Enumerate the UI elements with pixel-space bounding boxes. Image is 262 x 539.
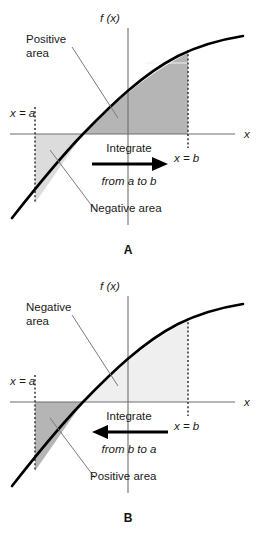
panel-b-positive-area-fill [35,402,83,471]
panel-a-diagram: f (x) x Positive area x = a x = b Integr… [0,0,262,270]
panel-b-direction-detail: from b to a [102,443,157,455]
figure-panel-a: f (x) x Positive area x = a x = b Integr… [0,0,262,270]
panel-b-negative-area-fill [83,321,188,402]
panel-a-positive-label-line2: area [26,47,50,59]
panel-b-caption: B [124,511,133,525]
panel-b-negative-label-line2: area [26,315,50,327]
panel-b-positive-leader [50,418,95,478]
panel-a-x-axis-label: x [243,128,251,140]
panel-a-negative-area-fill [35,134,83,203]
panel-b-direction-label: Integrate [106,410,151,422]
panel-a-positive-label-line1: Positive [26,33,66,45]
panel-b-positive-label: Positive area [90,470,157,482]
arrow-left-icon [92,425,108,439]
panel-b-y-axis-label: f (x) [100,280,120,292]
panel-a-caption: A [124,243,133,257]
panel-b-negative-label-line1: Negative [26,301,71,313]
panel-b-bound-a-label: x = a [9,375,35,387]
panel-a-negative-label: Negative area [90,202,162,214]
panel-a-positive-leader [72,47,118,118]
panel-a-y-axis-label: f (x) [100,12,120,24]
panel-b-bound-b-label: x = b [173,420,200,432]
panel-b-diagram: f (x) x Negative area x = a x = b Integr… [0,260,262,539]
panel-a-positive-area-fill [83,53,188,134]
panel-a-bound-b-label: x = b [173,152,200,164]
panel-b-negative-leader [72,315,118,386]
arrow-right-icon [152,157,168,171]
panel-b-x-axis-label: x [243,396,251,408]
panel-a-direction-detail: from a to b [102,175,158,187]
panel-a-negative-leader [50,150,95,210]
panel-a-direction-label: Integrate [106,142,151,154]
panel-a-bound-a-label: x = a [9,107,35,119]
figure-panel-b: f (x) x Negative area x = a x = b Integr… [0,260,262,539]
